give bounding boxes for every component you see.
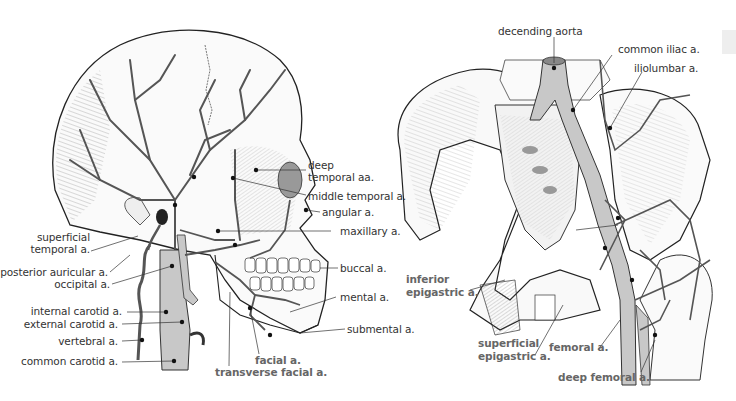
label-external-carotid: external carotid a.	[24, 318, 118, 330]
label-deep-temporal-line1: deep	[308, 159, 334, 171]
label-superficial-epigastric-line1: superficial	[478, 337, 539, 349]
label-occipital: occipital a.	[54, 278, 110, 290]
label-superficial-epigastric-line2: epigastric a.	[478, 350, 551, 362]
label-femoral: femoral a.	[549, 341, 608, 353]
label-transverse-facial: transverse facial a.	[215, 366, 327, 378]
label-internal-carotid: internal carotid a.	[31, 305, 122, 317]
label-mental: mental a.	[340, 291, 389, 303]
label-buccal: buccal a.	[340, 262, 386, 274]
label-common-carotid: common carotid a.	[21, 355, 118, 367]
label-common-iliac: common iliac a.	[618, 43, 700, 55]
label-inferior-epigastric-line2: epigastric a.	[406, 286, 479, 298]
label-descending-aorta: decending aorta	[498, 25, 582, 37]
label-superficial-temporal-line2: temporal a.	[30, 243, 90, 255]
label-superficial-temporal-line1: superficial	[37, 231, 90, 243]
label-inferior-epigastric-line1: inferior	[406, 273, 449, 285]
label-submental: submental a.	[347, 323, 415, 335]
label-deep-femoral: deep femoral a.	[558, 371, 650, 383]
label-facial: facial a.	[255, 354, 301, 366]
label-maxillary: maxillary a.	[340, 225, 401, 237]
anatomy-figure: deep temporal aa. middle temporal a. ang…	[0, 0, 736, 401]
label-deep-temporal-line2: temporal aa.	[308, 171, 374, 183]
label-angular: angular a.	[322, 206, 374, 218]
label-vertebral: vertebral a.	[58, 335, 118, 347]
label-middle-temporal: middle temporal a.	[308, 190, 406, 202]
label-iliolumbar: iliolumbar a.	[634, 62, 698, 74]
pelvis	[398, 60, 712, 380]
label-posterior-auricular: posterior auricular a.	[0, 266, 108, 278]
page-edge-tab	[722, 30, 736, 54]
